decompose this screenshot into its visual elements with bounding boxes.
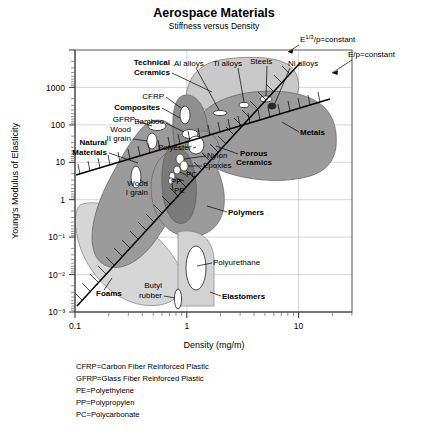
label-technical-ceramics-line2: Ceramics — [134, 68, 171, 77]
label-composites: Composites — [114, 103, 160, 112]
label-ni-alloys: Ni alloys — [288, 59, 318, 68]
chart-subtitle: Stiffness versus Density — [169, 21, 260, 31]
label-nylon: Nylon — [207, 151, 227, 160]
label-cfrp: CFRP — [142, 92, 164, 101]
label-technical-ceramics-line1: Technical — [134, 58, 170, 67]
label-natural-materials-line1: Natural — [79, 138, 107, 147]
plot-area — [74, 50, 352, 312]
legend-item-cfrp: CFRP=Carbon Fiber Reinforced Plastic — [76, 362, 209, 371]
aerospace-materials-chart: Aerospace Materials Stiffness versus Den… — [0, 0, 429, 432]
label-polyester: Polyester — [158, 143, 192, 152]
label-elastomers: Elastomers — [222, 292, 266, 301]
ashby-chart-page: Aerospace Materials Stiffness versus Den… — [0, 0, 429, 432]
y-tick-1000: 1000 — [46, 83, 65, 93]
x-tick-10: 10 — [294, 321, 304, 331]
label-natural-materials-line2: Materials — [72, 148, 107, 157]
legend-item-pp: PP=Polypropylen — [76, 398, 134, 407]
page-title: Aerospace Materials — [153, 6, 275, 20]
legend-item-pc: PC=Polycarbonate — [76, 410, 140, 419]
label-steels: Steels — [250, 57, 272, 66]
label-wood-perpendicular-line2: I grain — [126, 188, 148, 197]
x-tick-1: 1 — [184, 321, 189, 331]
label-gfrp: Bamboo — [134, 117, 164, 126]
label-porous-ceramics-line1: Porous — [240, 149, 268, 158]
y-tick-10: 10 — [56, 157, 66, 167]
label-polyurethane: Polyurethane — [213, 258, 261, 267]
label-butyl-rubber-line2: rubber — [139, 291, 162, 300]
marker-polyurethane — [186, 246, 206, 290]
y-tick-1: 1 — [60, 195, 65, 205]
label-butyl-rubber-line1: Butyl — [144, 281, 162, 290]
x-tick-0p1: 0.1 — [69, 321, 81, 331]
marker-al-alloys — [213, 110, 227, 115]
label-bamboo: GFRP — [113, 115, 135, 124]
marker-cfrp — [180, 106, 190, 124]
label-foams: Foams — [96, 289, 122, 298]
y-tick-1e-3: 10⁻³ — [48, 307, 65, 317]
legend-item-pe: PE=Polyethylene — [76, 386, 134, 395]
label-al-alloys: Al alloys — [174, 59, 204, 68]
label-metals: Metals — [300, 128, 325, 137]
marker-pc — [174, 166, 181, 174]
marker-ti-alloys — [239, 102, 249, 107]
label-polymers: Polymers — [228, 208, 265, 217]
label-ti-alloys: Ti alloys — [213, 59, 242, 68]
legend-item-gfrp: GFRP=Glass Fiber Reinforced Plastic — [76, 374, 204, 383]
guideline-e-label: E/p=constant — [348, 50, 396, 59]
label-pe: PE — [174, 186, 185, 195]
label-porous-ceramics-line2: Ceramics — [236, 158, 273, 167]
y-tick-1e-1: 10⁻¹ — [48, 232, 65, 242]
y-tick-100: 100 — [51, 120, 65, 130]
y-tick-1e-2: 10⁻² — [48, 270, 65, 280]
label-wood-perpendicular-line1: Wood — [127, 179, 148, 188]
label-pc: PC — [186, 170, 197, 179]
x-axis-title: Density (mg/m) — [183, 340, 244, 350]
label-epoxies: Epoxies — [203, 161, 231, 170]
marker-ni-alloys — [268, 103, 276, 109]
label-wood-parallel-line1: Wood — [110, 125, 131, 134]
y-axis-title: Young's Modulus of Elasticity — [10, 123, 20, 239]
marker-butyl-rubber — [174, 289, 181, 309]
label-wood-parallel-line2: II grain — [107, 134, 131, 143]
